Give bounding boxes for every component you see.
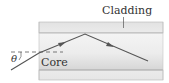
cladding-label: Cladding — [102, 4, 152, 17]
angle-arc — [19, 52, 21, 60]
cladding-bottom — [39, 70, 163, 80]
optical-fiber-diagram: Cladding θ Core — [0, 0, 169, 83]
angle-theta-label: θ — [11, 53, 17, 64]
core-label: Core — [41, 56, 68, 69]
cladding-top — [39, 22, 163, 33]
